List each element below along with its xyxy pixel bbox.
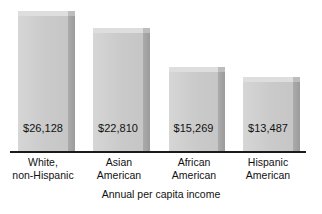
x-tick-label-line1: White, bbox=[28, 156, 58, 168]
x-tick-label-line1: African bbox=[178, 156, 211, 168]
x-axis-line bbox=[10, 151, 306, 153]
bar-value-label: $13,487 bbox=[243, 122, 293, 134]
x-tick-label-african-american: African American bbox=[156, 156, 232, 182]
bar-side-face bbox=[293, 82, 300, 152]
x-tick-label-line1: Hispanic bbox=[248, 156, 288, 168]
bar-front-face bbox=[243, 82, 293, 152]
bar-side-face bbox=[68, 16, 75, 152]
bar-front-face bbox=[93, 33, 143, 152]
bar-side-face bbox=[143, 33, 150, 152]
bar-group-hispanic-american: $13,487 bbox=[243, 77, 293, 152]
x-tick-label-white-non-hispanic: White, non-Hispanic bbox=[5, 156, 81, 182]
x-tick-label-line2: non-Hispanic bbox=[5, 169, 81, 182]
bar-group-african-american: $15,269 bbox=[169, 67, 218, 152]
bar-value-label: $15,269 bbox=[169, 122, 218, 134]
x-tick-label-line2: American bbox=[230, 169, 306, 182]
x-tick-label-line2: American bbox=[81, 169, 157, 182]
x-axis-title: Annual per capita income bbox=[0, 188, 322, 200]
x-tick-label-line1: Asian bbox=[106, 156, 132, 168]
bar-group-white-non-hispanic: $26,128 bbox=[18, 11, 68, 152]
plot-area: $26,128 $22,810 $15,269 $13,487 bbox=[0, 0, 322, 152]
bar-value-label: $22,810 bbox=[93, 122, 143, 134]
x-tick-label-asian-american: Asian American bbox=[81, 156, 157, 182]
bar-value-label: $26,128 bbox=[18, 122, 68, 134]
bar-side-face bbox=[218, 72, 225, 152]
x-tick-label-hispanic-american: Hispanic American bbox=[230, 156, 306, 182]
x-tick-label-line2: American bbox=[156, 169, 232, 182]
bar-chart: $26,128 $22,810 $15,269 $13,487 bbox=[0, 0, 322, 214]
bar-group-asian-american: $22,810 bbox=[93, 28, 143, 152]
bar-front-face bbox=[169, 72, 218, 152]
x-axis-tick-labels: White, non-Hispanic Asian American Afric… bbox=[0, 156, 322, 186]
